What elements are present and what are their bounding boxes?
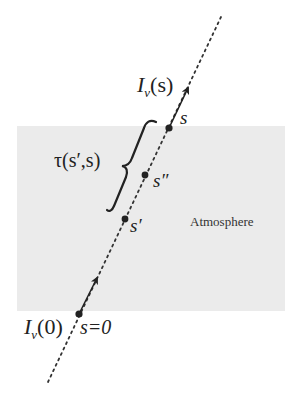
radiative-transfer-diagram: Atmosphere Iν(s) s τ(s′,s) s″ s′ Iν(0) s… (0, 0, 298, 403)
point-s-double-prime (142, 172, 149, 179)
point-s-prime (122, 216, 129, 223)
label-intensity-s: Iν(s) (136, 72, 173, 100)
label-s-zero: s=0 (80, 316, 111, 338)
label-s-prime: s′ (130, 215, 142, 236)
point-s (165, 124, 172, 131)
label-intensity-0: Iν(0) (23, 314, 63, 342)
label-s: s (180, 107, 187, 128)
label-s-double-prime: s″ (153, 170, 169, 191)
label-optical-depth: τ(s′,s) (54, 149, 100, 172)
atmosphere-label: Atmosphere (190, 214, 254, 229)
